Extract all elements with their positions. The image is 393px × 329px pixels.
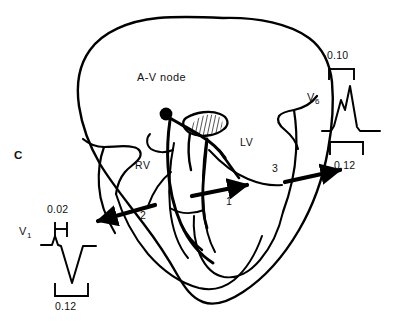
left-av-groove-notch bbox=[278, 96, 317, 212]
v1-lower-interval-bracket bbox=[55, 283, 88, 297]
activation-vector-1 bbox=[192, 185, 247, 196]
v6-lead-subscript: 6 bbox=[315, 97, 320, 106]
v1-lead-label: V1 bbox=[19, 226, 31, 237]
v1-upper-interval-bracket bbox=[55, 222, 67, 237]
v6-lead-label: V6 bbox=[307, 92, 319, 103]
vector-3-label: 3 bbox=[272, 163, 278, 174]
v1-lead-letter: V bbox=[19, 225, 27, 237]
v6-upper-interval-label: 0.10 bbox=[327, 50, 348, 61]
left-ventricle-label: LV bbox=[240, 137, 253, 148]
vector-1-label: 1 bbox=[226, 196, 232, 207]
v1-lead-subscript: 1 bbox=[27, 231, 32, 240]
figure-panel-c: C A-V node RV LV 1 2 3 0.02 V1 0.12 0.10… bbox=[0, 0, 393, 329]
av-node-label: A-V node bbox=[137, 72, 186, 83]
right-ventricle-label: RV bbox=[135, 160, 151, 171]
v1-lower-interval-label: 0.12 bbox=[55, 301, 76, 312]
v6-lower-interval-bracket bbox=[330, 141, 363, 155]
panel-label: C bbox=[14, 150, 23, 162]
vector-2-label: 2 bbox=[140, 210, 146, 221]
v6-lower-interval-label: 0.12 bbox=[334, 160, 355, 171]
v6-upper-interval-bracket bbox=[329, 68, 354, 80]
ecg-tracing-v1 bbox=[41, 222, 96, 297]
v6-lead-letter: V bbox=[307, 91, 315, 103]
v1-upper-interval-label: 0.02 bbox=[47, 204, 68, 215]
